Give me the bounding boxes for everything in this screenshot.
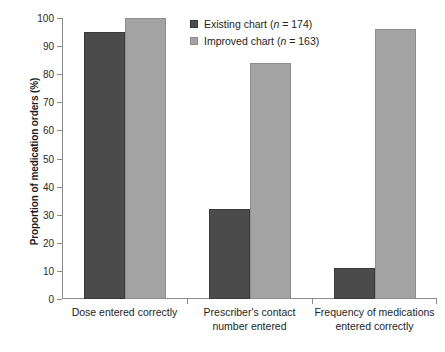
x-axis-separator <box>436 299 437 304</box>
legend-label-existing: Existing chart (n = 174) <box>204 18 312 30</box>
y-axis-tick-label: 0 <box>48 294 54 305</box>
x-axis-category-label: Prescriber's contactnumber entered <box>179 305 320 333</box>
y-axis-tick-mark <box>57 243 62 244</box>
y-axis-tick-label: 90 <box>43 41 54 52</box>
legend-improved-post: = 163) <box>286 35 319 47</box>
legend-improved-pre: Improved chart ( <box>204 35 280 47</box>
x-axis-separator <box>187 299 188 304</box>
x-axis-category-label-line: entered correctly <box>304 319 445 333</box>
y-axis-tick-mark <box>57 46 62 47</box>
legend-label-improved: Improved chart (n = 163) <box>204 35 319 47</box>
y-axis-tick-mark <box>57 74 62 75</box>
y-axis-tick-mark <box>57 187 62 188</box>
bar-improved-2 <box>375 29 416 299</box>
x-axis-category-label: Frequency of medicationsentered correctl… <box>304 305 445 333</box>
legend-swatch-existing-icon <box>190 20 198 28</box>
y-axis-title: Proportion of medication orders (%) <box>29 32 40 292</box>
y-axis-tick-mark <box>57 271 62 272</box>
legend-existing-pre: Existing chart ( <box>204 18 273 30</box>
legend-item-improved: Improved chart (n = 163) <box>190 33 319 48</box>
y-axis-tick-label: 20 <box>43 237 54 248</box>
y-axis-tick-label: 50 <box>43 153 54 164</box>
y-axis-tick-mark <box>57 18 62 19</box>
y-axis-tick-label: 100 <box>37 13 54 24</box>
y-axis-tick-label: 80 <box>43 69 54 80</box>
y-axis-tick-mark <box>57 130 62 131</box>
x-axis-category-label-line: Prescriber's contact <box>179 305 320 319</box>
legend-item-existing: Existing chart (n = 174) <box>190 16 319 31</box>
bar-existing-2 <box>334 268 375 299</box>
y-axis-line <box>62 18 63 299</box>
y-axis-tick-mark <box>57 299 62 300</box>
y-axis-tick-label: 60 <box>43 125 54 136</box>
bar-chart-figure: Proportion of medication orders (%) 0102… <box>0 0 445 352</box>
x-axis-category-label: Dose entered correctly <box>54 305 195 319</box>
x-axis-category-label-line: number entered <box>179 319 320 333</box>
x-axis-category-label-line: Frequency of medications <box>304 305 445 319</box>
legend: Existing chart (n = 174) Improved chart … <box>190 16 319 50</box>
y-axis-tick-mark <box>57 102 62 103</box>
legend-swatch-improved-icon <box>190 37 198 45</box>
bar-existing-1 <box>209 209 250 299</box>
legend-existing-post: = 174) <box>279 18 312 30</box>
plot-area: 0102030405060708090100 <box>62 18 437 299</box>
x-axis-separator <box>312 299 313 304</box>
bar-improved-1 <box>250 63 291 299</box>
y-axis-tick-mark <box>57 159 62 160</box>
y-axis-tick-label: 10 <box>43 265 54 276</box>
y-axis-tick-mark <box>57 215 62 216</box>
y-axis-tick-label: 70 <box>43 97 54 108</box>
bar-existing-0 <box>84 32 125 299</box>
x-axis-category-label-line: Dose entered correctly <box>54 305 195 319</box>
bar-improved-0 <box>125 18 166 299</box>
y-axis-tick-label: 40 <box>43 181 54 192</box>
y-axis-tick-label: 30 <box>43 209 54 220</box>
